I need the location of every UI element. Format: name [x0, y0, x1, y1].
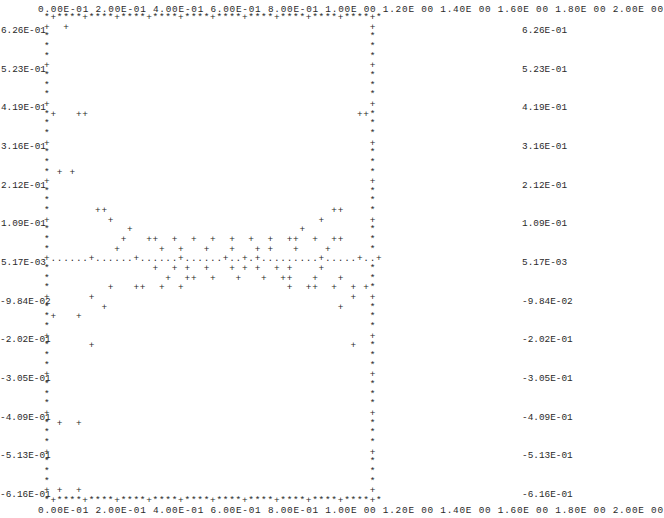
x-axis-labels-bottom: 0.00E-01 2.00E-01 4.00E-01 6.00E-01 8.00… [38, 505, 664, 516]
y-tick-label-left: -3.05E-01 [0, 374, 46, 384]
y-tick-label-right: -4.09E-01 [522, 413, 573, 423]
y-tick-label-left: -4.09E-01 [0, 413, 46, 423]
y-tick-label-right: -6.16E-01 [522, 490, 573, 500]
ascii-plot-area: *+****+****+****+****+****+****+****+***… [44, 13, 382, 505]
y-tick-label-right: 1.09E-01 [522, 219, 567, 229]
y-tick-label-left: 5.23E-01 [0, 65, 46, 75]
y-tick-label-left: -5.13E-01 [0, 451, 46, 461]
y-tick-label-right: 2.12E-01 [522, 181, 567, 191]
y-tick-label-left: 4.19E-01 [0, 103, 46, 113]
y-tick-label-left: 5.17E-03 [0, 258, 46, 268]
y-tick-label-right: -2.02E-01 [522, 335, 573, 345]
y-tick-label-right: 4.19E-01 [522, 103, 567, 113]
y-tick-label-right: 5.17E-03 [522, 258, 567, 268]
y-tick-label-right: 6.26E-01 [522, 26, 567, 36]
y-tick-label-left: 2.12E-01 [0, 181, 46, 191]
y-tick-label-left: 6.26E-01 [0, 26, 46, 36]
y-tick-label-right: 3.16E-01 [522, 142, 567, 152]
y-tick-label-left: -6.16E-01 [0, 490, 46, 500]
y-tick-label-right: -5.13E-01 [522, 451, 573, 461]
y-tick-label-left: 1.09E-01 [0, 219, 46, 229]
y-tick-label-left: -9.84E-02 [0, 297, 46, 307]
y-tick-label-left: 3.16E-01 [0, 142, 46, 152]
y-tick-label-right: -3.05E-01 [522, 374, 573, 384]
y-tick-label-right: -9.84E-02 [522, 297, 573, 307]
y-tick-label-left: -2.02E-01 [0, 335, 46, 345]
y-tick-label-right: 5.23E-01 [522, 65, 567, 75]
